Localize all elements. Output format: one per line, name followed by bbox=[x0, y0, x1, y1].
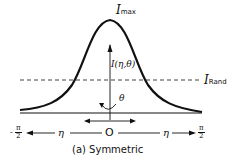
left-limit-sign: - bbox=[10, 129, 13, 137]
theta-arc bbox=[102, 104, 116, 109]
intensity-function-label: I(η,θ) bbox=[111, 60, 135, 69]
eta-left-arrowhead-icon bbox=[26, 131, 33, 136]
left-arrowhead-icon bbox=[84, 119, 90, 124]
right-arrowhead-icon bbox=[130, 119, 136, 124]
symmetric-distribution-diagram: Imax I(η,θ) IRand θ - π 2 η O η π 2 (a) … bbox=[0, 0, 246, 166]
random-level-label: IRand bbox=[204, 74, 227, 86]
eta-right-label: η bbox=[163, 128, 169, 138]
left-limit-fraction: π 2 bbox=[15, 125, 22, 140]
theta-label: θ bbox=[119, 94, 124, 103]
peak-label: Imax bbox=[116, 4, 136, 16]
eta-left-label: η bbox=[58, 128, 64, 138]
origin-label: O bbox=[105, 127, 114, 138]
eta-right-arrowhead-icon bbox=[189, 131, 196, 136]
right-limit-fraction: π 2 bbox=[198, 125, 205, 140]
intensity-arrowhead-icon bbox=[108, 44, 113, 52]
figure-caption: (a) Symmetric bbox=[72, 144, 143, 155]
